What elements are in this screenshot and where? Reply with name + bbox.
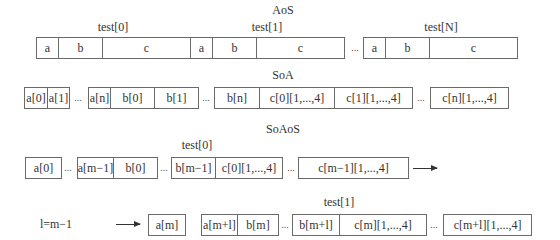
soaos-b0-cell-am1: a[m−1]: [77, 157, 114, 179]
soa-cell-bn: b[n]: [214, 87, 260, 109]
aos-cell-a-1: a: [190, 37, 213, 59]
continuation-arrow-icon: [413, 168, 437, 169]
aos-cell-c-1: c: [256, 37, 345, 59]
soa-cell-an: a[n]: [88, 87, 111, 109]
aos-cell-a-n: a: [363, 37, 386, 59]
aos-cell-b-1: b: [212, 37, 257, 59]
soaos-b0-cell-c0: c[0][1,...,4]: [215, 157, 283, 179]
soaos-b1-cell-cm: c[m][1,...,4]: [339, 214, 427, 236]
soaos-b1-cell-cml: c[m+l][1,...,4]: [443, 214, 532, 236]
soa-cell-b1: b[1]: [154, 87, 199, 109]
soaos-block1-label: test[1]: [324, 195, 355, 210]
soaos-b1-cell-bml: b[m+l]: [292, 214, 340, 236]
soaos-b0-ellipsis-b: ...: [160, 162, 168, 173]
aos-group-label-1: test[1]: [252, 20, 283, 35]
soaos-b0-ellipsis-c: ...: [287, 162, 295, 173]
soa-cell-c1: c[1][1,...,4]: [334, 87, 413, 109]
aos-ellipsis: ...: [351, 42, 359, 53]
soa-ellipsis-c: ...: [417, 92, 425, 103]
soa-cell-b0: b[0]: [110, 87, 155, 109]
soa-cell-a1: a[1]: [47, 87, 70, 109]
soaos-b1-cell-am: a[m]: [148, 214, 186, 236]
soa-cell-c0: c[0][1,...,4]: [259, 87, 335, 109]
aos-group-label-0: test[0]: [98, 20, 129, 35]
soaos-block0-label: test[0]: [182, 138, 213, 153]
soaos-b1-cell-aml: a[m+l]: [201, 214, 238, 236]
soaos-b0-cell-cm1: c[m−1][1,...,4]: [298, 157, 409, 179]
soa-title: SoA: [272, 68, 293, 83]
soa-cell-cn: c[n][1,...,4]: [430, 87, 509, 109]
aos-cell-c-0: c: [102, 37, 191, 59]
soaos-title: SoAoS: [266, 122, 300, 137]
soaos-b0-cell-bm1: b[m−1]: [171, 157, 216, 179]
aos-cell-a-0: a: [36, 37, 59, 59]
soa-ellipsis-a: ...: [74, 92, 82, 103]
soaos-b1-cell-bm: b[m]: [237, 214, 279, 236]
aos-cell-b-n: b: [385, 37, 430, 59]
soaos-b0-cell-b0: b[0]: [113, 157, 158, 179]
soaos-b1-ellipsis-c: ...: [430, 219, 438, 230]
aos-cell-c-n: c: [429, 37, 518, 59]
wrap-arrow-icon: [116, 224, 140, 225]
soa-cell-a0: a[0]: [24, 87, 48, 109]
aos-cell-b-0: b: [58, 37, 103, 59]
soaos-b0-cell-a0: a[0]: [25, 157, 62, 179]
soaos-block1-note: l=m−1: [40, 217, 72, 232]
soaos-b0-ellipsis-a: ...: [64, 162, 72, 173]
soaos-b1-ellipsis-b: ...: [281, 219, 289, 230]
soa-ellipsis-b: ...: [202, 92, 210, 103]
aos-title: AoS: [272, 3, 293, 18]
aos-group-label-2: test[N]: [424, 20, 457, 35]
